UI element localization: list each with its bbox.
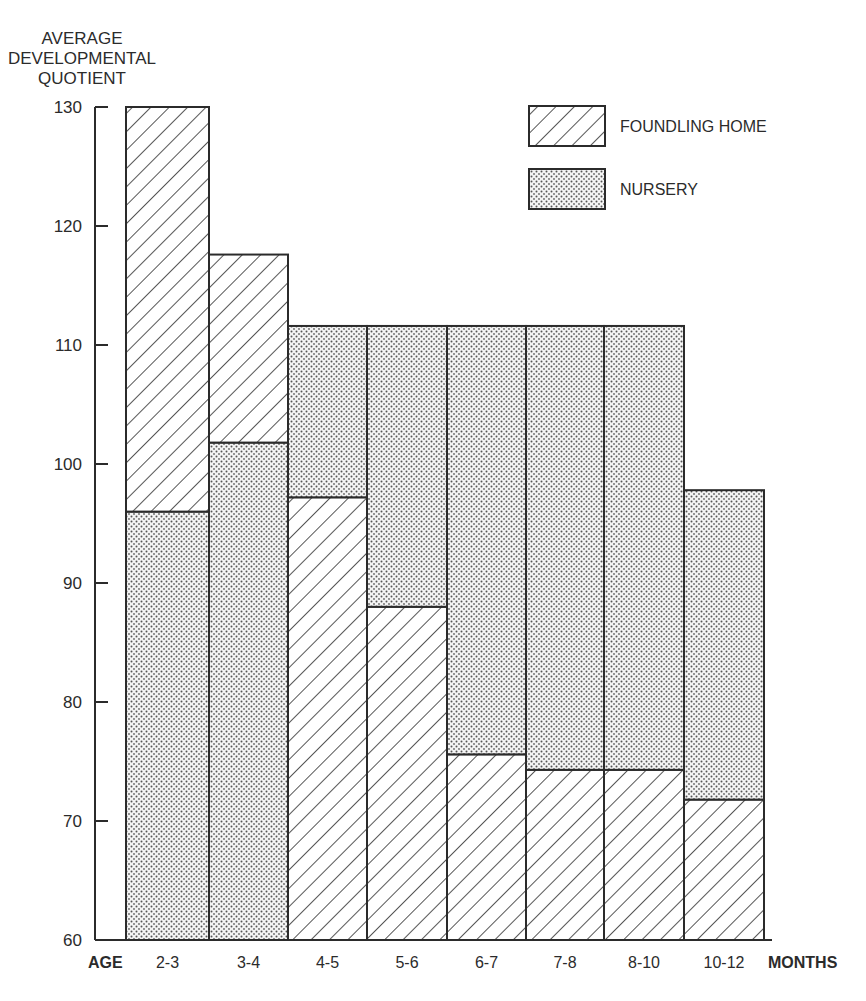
legend-swatch-nursery — [529, 169, 605, 209]
bar-group-2-3 — [126, 107, 209, 940]
bar-nursery-5-6 — [367, 326, 447, 607]
bar-foundling-home-6-7 — [447, 754, 526, 940]
y-tick-label-60: 60 — [63, 931, 82, 950]
bar-nursery-10-12 — [684, 490, 764, 799]
bar-group-8-10 — [604, 326, 684, 940]
bar-group-4-5 — [288, 326, 367, 940]
bar-nursery-4-5 — [288, 326, 367, 497]
bar-foundling-home-7-8 — [526, 770, 604, 940]
bar-group-3-4 — [209, 255, 288, 940]
bar-nursery-2-3 — [126, 512, 209, 940]
x-tick-label-8-10: 8-10 — [628, 954, 660, 971]
y-axis-label-line-2: DEVELOPMENTAL — [8, 49, 156, 68]
x-tick-label-2-3: 2-3 — [156, 954, 179, 971]
x-axis-label-age: AGE — [88, 954, 123, 971]
x-tick-label-10-12: 10-12 — [704, 954, 745, 971]
legend-label-nursery: NURSERY — [620, 181, 698, 198]
bar-foundling-home-10-12 — [684, 800, 764, 940]
y-ticks-group: 60708090100110120130 — [54, 98, 108, 950]
bar-foundling-home-2-3 — [126, 107, 209, 512]
y-tick-label-70: 70 — [63, 812, 82, 831]
y-tick-label-90: 90 — [63, 574, 82, 593]
bar-group-10-12 — [684, 490, 764, 940]
chart: AVERAGE DEVELOPMENTAL QUOTIENT 607080901… — [0, 0, 866, 1001]
y-tick-label-110: 110 — [55, 336, 82, 355]
y-axis-label-line-1: AVERAGE — [42, 29, 123, 48]
legend-label-foundling-home: FOUNDLING HOME — [620, 118, 767, 135]
bar-group-6-7 — [447, 326, 526, 940]
y-tick-label-130: 130 — [54, 98, 82, 117]
x-axis-label-months: MONTHS — [768, 954, 838, 971]
bar-nursery-3-4 — [209, 443, 288, 940]
bar-group-5-6 — [367, 326, 447, 940]
y-tick-label-120: 120 — [54, 217, 82, 236]
bar-foundling-home-5-6 — [367, 607, 447, 940]
bar-foundling-home-4-5 — [288, 497, 367, 940]
y-axis-label-line-3: QUOTIENT — [38, 69, 126, 88]
x-tick-label-7-8: 7-8 — [553, 954, 576, 971]
bar-nursery-8-10 — [604, 326, 684, 770]
bar-nursery-6-7 — [447, 326, 526, 754]
y-axis-label: AVERAGE DEVELOPMENTAL QUOTIENT — [8, 29, 156, 88]
bars-group — [126, 107, 764, 940]
bar-nursery-7-8 — [526, 326, 604, 770]
x-tick-label-3-4: 3-4 — [237, 954, 260, 971]
x-tick-label-6-7: 6-7 — [475, 954, 498, 971]
bar-foundling-home-3-4 — [209, 255, 288, 443]
x-ticks-group: 2-33-44-55-66-77-88-1010-12 — [156, 954, 745, 971]
x-tick-label-5-6: 5-6 — [395, 954, 418, 971]
y-tick-label-100: 100 — [54, 455, 82, 474]
bar-foundling-home-8-10 — [604, 770, 684, 940]
x-tick-label-4-5: 4-5 — [316, 954, 339, 971]
legend-swatch-foundling-home — [529, 106, 605, 146]
y-tick-label-80: 80 — [63, 693, 82, 712]
legend: FOUNDLING HOME NURSERY — [529, 106, 767, 209]
bar-group-7-8 — [526, 326, 604, 940]
